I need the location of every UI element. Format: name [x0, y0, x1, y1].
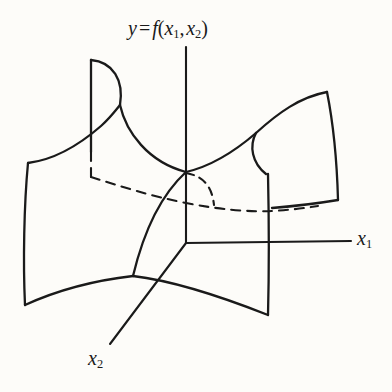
left-outer-silhouette: [28, 105, 120, 163]
label-equals-sign: =: [137, 17, 152, 39]
x2-axis-line: [110, 243, 186, 344]
x2-axis-label: x2: [88, 348, 103, 371]
right-lower-rim: [272, 200, 338, 208]
label-arg1-base: x: [164, 17, 173, 39]
bottom-front-rim-right: [133, 276, 268, 315]
hidden-edges-group: [91, 152, 318, 211]
x1-axis-label: x1: [357, 228, 372, 251]
surface-diagram-svg: [0, 0, 392, 392]
figure-canvas: y=f(x1, x2) x1 x2: [0, 0, 392, 392]
label-x1-sub: 1: [366, 237, 372, 251]
bottom-front-rim-left: [25, 276, 133, 305]
label-x1-base: x: [357, 227, 366, 249]
label-y-variable: y: [128, 17, 137, 39]
vertical-axis-label: y=f(x1, x2): [128, 18, 208, 41]
visible-edges-group: [24, 60, 338, 315]
right-peak-rim-curve: [256, 92, 327, 133]
left-peak-rim-curve: [91, 60, 121, 105]
label-arg2-base: x: [186, 17, 195, 39]
label-x2-sub: 2: [97, 357, 103, 371]
right-border-edge: [327, 92, 338, 200]
axes-group: [110, 47, 351, 344]
label-x2-base: x: [88, 347, 97, 369]
right-upper-ridge-from-saddle: [186, 133, 256, 172]
left-border-edge: [24, 163, 28, 305]
front-fold-left: [133, 172, 186, 276]
hidden-saddle-arc: [186, 173, 214, 205]
left-upper-ridge-to-saddle: [120, 105, 186, 172]
right-front-post: [268, 174, 269, 315]
label-comma: ,: [180, 17, 185, 39]
label-close-paren: ): [201, 17, 208, 39]
right-inner-fold: [252, 133, 266, 174]
